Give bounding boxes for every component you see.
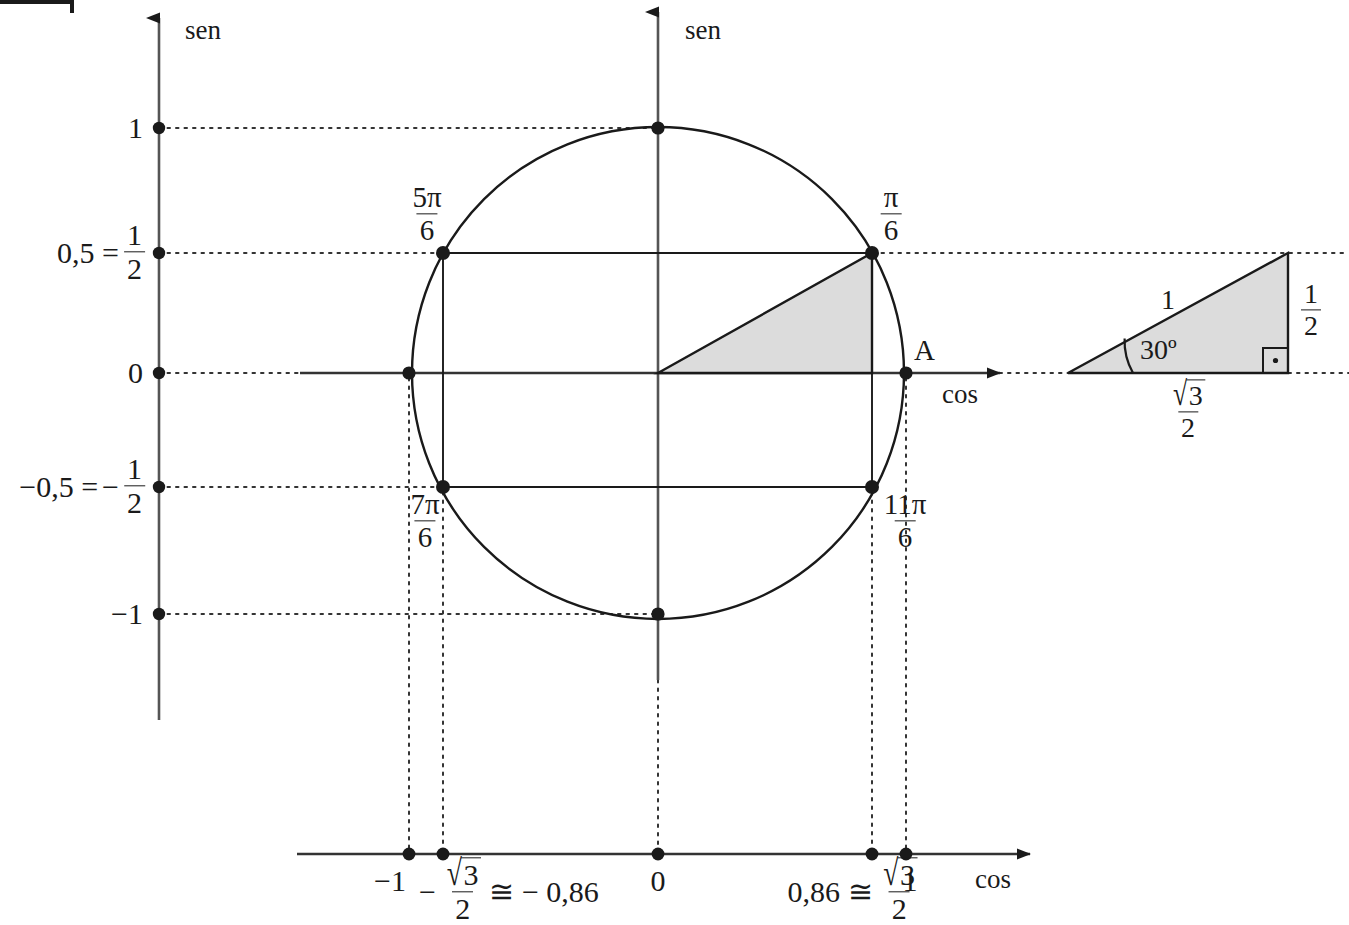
point-bottom-of-circle (651, 607, 664, 620)
cos-tick-label-neg-1: −1 (374, 866, 406, 896)
point-pi-6 (865, 246, 879, 260)
sine-point-half (153, 247, 165, 259)
reference-triangle-hypotenuse-label: 1 (1161, 286, 1175, 314)
circle-label-11pi-6: 11π 6 (880, 490, 931, 553)
sine-tick-label-half: 0,5 = 1 2 (57, 220, 146, 285)
cos-tick-label-0: 0 (651, 866, 666, 896)
sine-tick-half-fraction: 1 2 (124, 219, 145, 284)
trigonometry-diagram (0, 0, 1349, 925)
sine-point-1 (153, 122, 165, 134)
sine-tick-neg-half-fraction: 1 2 (124, 453, 145, 518)
circle-label-5pi-6: 5π 6 (408, 183, 445, 246)
right-angle-marker-dot (1273, 358, 1278, 363)
sine-axis-label-circle: sen (685, 17, 721, 44)
circle-label-7pi-6: 7π 6 (406, 490, 443, 553)
cosine-bottom-axis-label: cos (975, 866, 1011, 893)
cos-point-0 (652, 848, 665, 861)
fraction-one-half-opposite: 1 2 (1301, 279, 1321, 340)
point-left-of-circle (402, 366, 415, 379)
cos-point-neg-1 (403, 848, 416, 861)
fraction-pi-6: π 6 (881, 182, 902, 245)
fraction-11pi-6: 11π 6 (881, 489, 930, 552)
point-a-label: A (914, 336, 935, 365)
cos-tick-label-neg-root3-2: − √3 2 ≅ − 0,86 (419, 858, 599, 925)
figure-canvas: sen sen cos cos A 1 0,5 = 1 2 0 −0,5 = −… (0, 0, 1349, 925)
point-a (899, 366, 912, 379)
cos-neg-root3-sign: − (419, 877, 436, 907)
sine-tick-neg-half-text: −0,5 = (19, 472, 98, 502)
cos-neg-root3-fraction: √3 2 (441, 857, 484, 924)
sine-point-neg-half (153, 481, 165, 493)
sine-tick-label-1: 1 (128, 113, 143, 143)
circle-label-pi-6: π 6 (880, 183, 903, 246)
point-11pi-6 (865, 480, 879, 494)
reference-triangle-angle-label: 30º (1140, 336, 1177, 364)
fraction-root3-2-adjacent: √3 2 (1167, 379, 1208, 442)
reference-triangle-opposite-label: 1 2 (1300, 280, 1322, 341)
cosine-axis-label: cos (942, 381, 978, 408)
fraction-7pi-6: 7π 6 (407, 489, 442, 552)
sine-axis-label-left: sen (185, 17, 221, 44)
sqrt3-numerator-tri: √3 (1167, 379, 1208, 411)
sine-tick-half-text: 0,5 = (57, 238, 119, 268)
sqrt3-numerator: √3 (441, 857, 484, 891)
sine-tick-label-neg-1: −1 (111, 599, 143, 629)
cos-tick-label-1: 1 (903, 866, 918, 896)
sine-point-0 (153, 367, 165, 379)
point-5pi-6 (436, 246, 450, 260)
sine-tick-label-0: 0 (128, 358, 143, 388)
sine-tick-neg-half-sign: − (102, 472, 119, 502)
sine-tick-label-neg-half: −0,5 = − 1 2 (19, 454, 146, 519)
reference-triangle-adjacent-label: √3 2 (1166, 380, 1209, 443)
point-top-of-circle (651, 121, 664, 134)
fraction-5pi-6: 5π 6 (409, 182, 444, 245)
cos-neg-root3-approx: ≅ − 0,86 (489, 877, 598, 907)
sine-point-neg-1 (153, 608, 165, 620)
cos-root3-prefix: 0,86 ≅ (788, 877, 873, 907)
